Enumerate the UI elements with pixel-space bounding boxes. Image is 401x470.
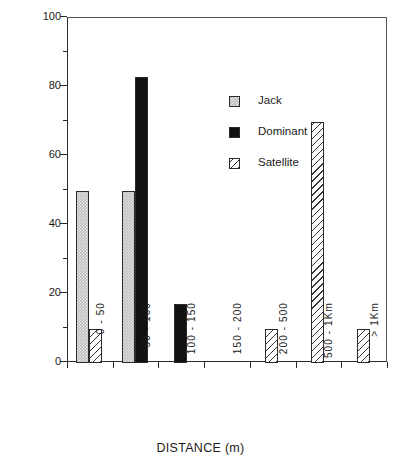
legend-label-jack: Jack: [258, 94, 282, 106]
y-tick-label: 60: [31, 149, 61, 159]
plot-area: Jack Dominant Satellite: [67, 17, 387, 362]
bar-satellite: [357, 329, 370, 364]
y-tick-label: 40: [31, 218, 61, 228]
y-tick-major: [60, 16, 67, 17]
x-tick: [67, 362, 68, 368]
x-tick: [341, 362, 342, 368]
legend-swatch-jack-icon: [229, 96, 240, 107]
legend-label-dominant: Dominant: [258, 125, 307, 137]
x-tick: [250, 362, 251, 368]
bar-dominant: [174, 304, 187, 363]
bar-satellite: [265, 329, 278, 364]
x-tick-label: 50 - 100: [141, 302, 152, 372]
legend-item-dominant: Dominant: [229, 125, 359, 156]
y-tick-major: [60, 154, 67, 155]
y-tick-major: [60, 292, 67, 293]
x-tick: [158, 362, 159, 368]
legend-label-satellite: Satellite: [258, 156, 299, 168]
y-tick-label: 80: [31, 80, 61, 90]
x-tick-label: 0 - 50: [95, 302, 106, 372]
legend-item-satellite: Satellite: [229, 156, 359, 187]
bar-jack: [76, 191, 89, 364]
x-axis-title: DISTANCE (m): [0, 441, 401, 455]
legend-item-jack: Jack: [229, 94, 359, 125]
y-tick-major: [60, 361, 67, 362]
legend-swatch-dominant-icon: [229, 127, 240, 138]
x-tick-label: 100 - 150: [186, 302, 197, 372]
x-tick: [204, 362, 205, 368]
y-tick-label: 100: [31, 11, 61, 21]
chart-legend: Jack Dominant Satellite: [229, 94, 359, 187]
x-tick-label: 150 - 200: [232, 302, 243, 372]
y-tick-major: [60, 223, 67, 224]
x-tick-label: 500 - 1Km: [323, 302, 334, 372]
bar-jack: [122, 191, 135, 364]
x-tick: [113, 362, 114, 368]
legend-swatch-satellite-icon: [229, 158, 240, 169]
y-tick-major: [60, 85, 67, 86]
bar-chart-figure: PERCENT OF MALES 020406080100 Jack Domin…: [0, 0, 401, 470]
y-tick-label: 20: [31, 287, 61, 297]
x-tick-label: > 1Km: [369, 302, 380, 372]
x-tick: [296, 362, 297, 368]
y-tick-label: 0: [31, 356, 61, 366]
x-tick: [387, 362, 388, 368]
x-tick-label: 200 - 500: [278, 302, 289, 372]
